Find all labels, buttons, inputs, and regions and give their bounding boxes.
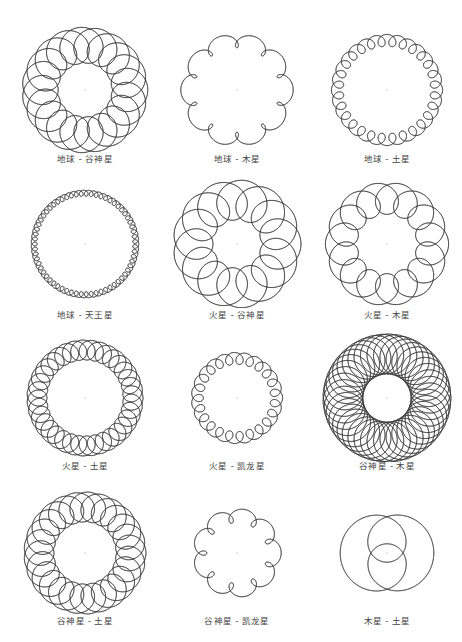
sun-center-dot <box>236 89 237 90</box>
spirograph-plot <box>10 168 160 308</box>
spirograph-plot <box>162 14 312 154</box>
sun-center-dot <box>236 397 237 398</box>
panel-caption: 火星 - 凯龙星 <box>162 459 312 471</box>
sun-center-dot <box>386 552 387 553</box>
panel-caption: 火星 - 土星 <box>10 459 160 471</box>
spirograph-plot <box>10 322 160 462</box>
sun-center-dot <box>84 89 85 90</box>
sun-center-dot <box>236 243 237 244</box>
panel-earth-saturn: 地球 - 土星 <box>312 14 462 169</box>
spirograph-plot <box>162 168 312 308</box>
panel-earth-ceres: 地球 - 谷神星 <box>10 14 160 169</box>
panel-caption: 地球 - 谷神星 <box>10 152 160 164</box>
spirograph-plot <box>312 477 462 617</box>
panel-earth-uranus: 地球 - 天王星 <box>10 168 160 323</box>
sun-center-dot <box>386 89 387 90</box>
sun-center-dot <box>386 397 387 398</box>
panel-caption: 地球 - 天王星 <box>10 308 160 320</box>
spirograph-plot <box>312 322 462 462</box>
panel-ceres-saturn: 谷神星 - 土星 <box>10 477 160 632</box>
panel-caption: 谷神星 - 凯龙星 <box>162 614 312 626</box>
sun-center-dot <box>84 397 85 398</box>
panel-caption: 木星 - 土星 <box>312 614 462 626</box>
spirograph-plot <box>162 322 312 462</box>
orbit-curve <box>194 509 281 597</box>
panel-mars-ceres: 火星 - 谷神星 <box>162 168 312 323</box>
spirograph-plot <box>10 477 160 617</box>
panel-ceres-jupiter: 谷神星 - 木星 <box>312 322 462 477</box>
panel-earth-jupiter: 地球 - 木星 <box>162 14 312 169</box>
sun-center-dot <box>236 552 237 553</box>
panel-mars-chiron: 火星 - 凯龙星 <box>162 322 312 477</box>
sun-center-dot <box>386 243 387 244</box>
panel-caption: 地球 - 木星 <box>162 152 312 164</box>
sun-center-dot <box>84 243 85 244</box>
panel-caption: 地球 - 土星 <box>312 152 462 164</box>
sun-center-dot <box>84 552 85 553</box>
panel-mars-saturn: 火星 - 土星 <box>10 322 160 477</box>
panel-caption: 火星 - 木星 <box>312 308 462 320</box>
panel-caption: 谷神星 - 土星 <box>10 614 160 626</box>
panel-mars-jupiter: 火星 - 木星 <box>312 168 462 323</box>
panel-ceres-chiron: 谷神星 - 凯龙星 <box>162 477 312 632</box>
spirograph-plot <box>162 477 312 617</box>
panel-caption: 谷神星 - 木星 <box>312 459 462 471</box>
spirograph-plot <box>10 14 160 154</box>
panel-jupiter-saturn: 木星 - 土星 <box>312 477 462 632</box>
spirograph-plot <box>312 168 462 308</box>
spirograph-plot <box>312 14 462 154</box>
panel-caption: 火星 - 谷神星 <box>162 308 312 320</box>
